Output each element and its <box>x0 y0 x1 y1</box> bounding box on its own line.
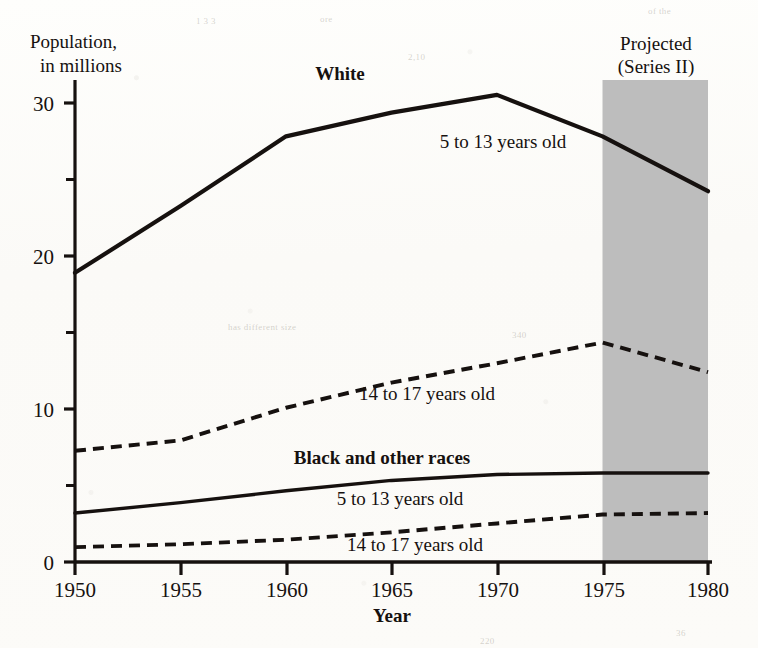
series-label-black-14-17: 14 to 17 years old <box>347 534 484 555</box>
y-tick-label-0: 0 <box>44 551 55 575</box>
y-axis-title-line2: in millions <box>40 55 122 76</box>
series-group-label-white: White <box>315 63 365 84</box>
projected-label-line1: Projected <box>620 33 692 54</box>
series-label-white-14-17: 14 to 17 years old <box>359 383 496 404</box>
y-tick-label-20: 20 <box>33 245 54 269</box>
chart-figure: 0 10 20 30 1950 1955 1960 1965 1970 1975… <box>0 0 758 648</box>
y-axis-title-line1: Population, <box>30 31 117 52</box>
x-axis-title: Year <box>373 605 412 626</box>
x-tick-label-1970: 1970 <box>477 578 519 602</box>
y-tick-label-10: 10 <box>33 398 54 422</box>
x-tick-label-1980: 1980 <box>687 578 729 602</box>
x-tick-label-1950: 1950 <box>54 578 96 602</box>
x-tick-label-1975: 1975 <box>583 578 625 602</box>
series-label-white-5-13: 5 to 13 years old <box>440 131 567 152</box>
projected-region-band <box>603 80 709 562</box>
x-tick-label-1965: 1965 <box>371 578 413 602</box>
y-tick-label-30: 30 <box>33 92 54 116</box>
projected-label-line2: (Series II) <box>618 56 695 78</box>
population-line-chart: 0 10 20 30 1950 1955 1960 1965 1970 1975… <box>0 0 758 648</box>
series-label-black-5-13: 5 to 13 years old <box>337 488 464 509</box>
x-tick-label-1960: 1960 <box>266 578 308 602</box>
x-tick-label-1955: 1955 <box>160 578 202 602</box>
series-group-label-black: Black and other races <box>294 447 470 468</box>
